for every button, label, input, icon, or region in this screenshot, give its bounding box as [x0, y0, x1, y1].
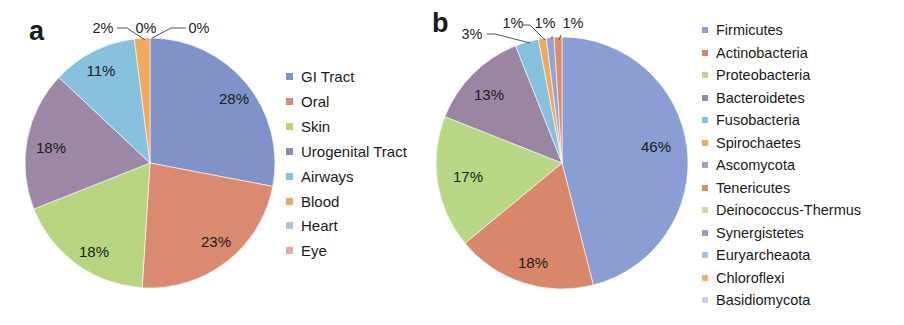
legend-swatch: [702, 117, 708, 123]
slice-label: 11%: [87, 62, 116, 79]
legend-label: Basidiomycota: [716, 292, 810, 308]
slice-label: 0%: [136, 20, 157, 36]
slice-label: 18%: [36, 139, 66, 156]
legend-item-synergistetes: Synergistetes: [702, 225, 804, 241]
slice-label: 46%: [641, 138, 671, 155]
legend-label: Chloroflexi: [716, 270, 785, 286]
legend-swatch: [702, 50, 708, 56]
slice-label: 17%: [453, 168, 483, 185]
legend-swatch: [702, 207, 708, 213]
legend-swatch: [702, 185, 708, 191]
legend-item-tenericutes: Tenericutes: [702, 180, 790, 196]
legend-swatch: [702, 27, 708, 33]
legend-label: Skin: [301, 118, 330, 135]
legend-label: Heart: [301, 217, 338, 234]
legend-item-actinobacteria: Actinobacteria: [702, 45, 808, 61]
slice-label: 23%: [201, 233, 231, 250]
legend-label: Airways: [301, 168, 354, 185]
legend-swatch: [702, 95, 708, 101]
legend-label: Ascomycota: [716, 157, 795, 173]
legend-item-bacteroidetes: Bacteroidetes: [702, 90, 805, 106]
legend-swatch: [286, 247, 293, 254]
slice-label: 1%: [563, 15, 584, 31]
legend-swatch: [702, 297, 708, 303]
legend-label: Firmicutes: [716, 22, 783, 38]
legend-label: Urogenital Tract: [301, 143, 407, 160]
slice-label: 13%: [474, 86, 504, 103]
legend-label: Fusobacteria: [716, 112, 800, 128]
legend-swatch: [286, 198, 293, 205]
legend-label: GI Tract: [301, 68, 354, 85]
legend-swatch: [286, 98, 293, 105]
legend-swatch: [702, 140, 708, 146]
pie-chart-a: 28%23%18%18%11%2%0%0%: [25, 20, 275, 288]
legend-label: Bacteroidetes: [716, 90, 805, 106]
legend-item-euryarcheaota: Euryarcheaota: [702, 247, 810, 263]
slice-label: 18%: [518, 254, 548, 271]
legend-swatch: [286, 73, 293, 80]
legend-label: Spirochaetes: [716, 135, 801, 151]
slice-label: 1%: [535, 15, 556, 31]
legend-label: Oral: [301, 93, 329, 110]
legend-item-spirochaetes: Spirochaetes: [702, 135, 801, 151]
legend-swatch: [286, 148, 293, 155]
legend-item-proteobacteria: Proteobacteria: [702, 67, 810, 83]
legend-item-basidiomycota: Basidiomycota: [702, 292, 810, 308]
legend-item-urogenital-tract: Urogenital Tract: [286, 143, 407, 160]
legend-label: Deinococcus-Thermus: [716, 202, 861, 218]
legend-item-fusobacteria: Fusobacteria: [702, 112, 800, 128]
legend-label: Actinobacteria: [716, 45, 808, 61]
slice-label: 2%: [93, 20, 114, 36]
legend-item-airways: Airways: [286, 168, 354, 185]
legend-swatch: [702, 230, 708, 236]
leader-line: [487, 34, 530, 43]
legend-label: Blood: [301, 193, 339, 210]
legend-item-chloroflexi: Chloroflexi: [702, 270, 785, 286]
legend-item-firmicutes: Firmicutes: [702, 22, 783, 38]
legend-item-oral: Oral: [286, 93, 329, 110]
legend-label: Proteobacteria: [716, 67, 810, 83]
legend-swatch: [702, 72, 708, 78]
legend-swatch: [702, 275, 708, 281]
legend-item-blood: Blood: [286, 193, 339, 210]
legend-swatch: [286, 222, 293, 229]
slice-label: 0%: [189, 20, 210, 36]
leader-line: [152, 28, 186, 38]
legend-swatch: [702, 252, 708, 258]
legend-label: Synergistetes: [716, 225, 804, 241]
legend-swatch: [286, 173, 293, 180]
legend-swatch: [702, 162, 708, 168]
slice-label: 1%: [503, 15, 524, 31]
slice-label: 3%: [462, 26, 483, 42]
legend-swatch: [286, 123, 293, 130]
legend-item-eye: Eye: [286, 242, 327, 259]
legend-item-heart: Heart: [286, 217, 338, 234]
legend-label: Eye: [301, 242, 327, 259]
legend-label: Euryarcheaota: [716, 247, 810, 263]
legend-item-gi-tract: GI Tract: [286, 68, 354, 85]
pie-slice-gi-tract: [150, 38, 275, 186]
legend-item-skin: Skin: [286, 118, 330, 135]
slice-label: 28%: [219, 90, 249, 107]
slice-label: 18%: [79, 243, 109, 260]
pie-chart-b: 46%18%17%13%3%1%1%1%: [436, 15, 688, 289]
legend-item-deinococcus-thermus: Deinococcus-Thermus: [702, 202, 861, 218]
legend-label: Tenericutes: [716, 180, 790, 196]
legend-item-ascomycota: Ascomycota: [702, 157, 795, 173]
